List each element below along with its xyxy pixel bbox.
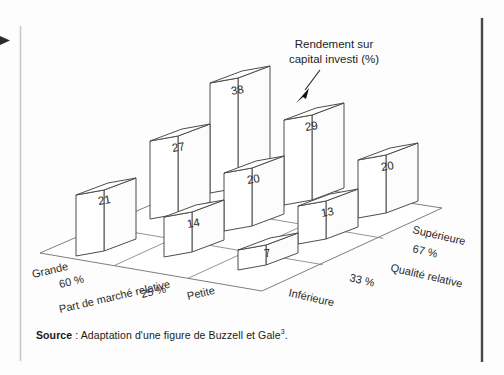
xaxis-tick-petite: Petite	[186, 284, 216, 302]
callout-arrow-icon	[296, 88, 309, 103]
bar-value-label: 13	[320, 205, 335, 219]
figure-container: 20 29 38 13 20	[0, 0, 504, 375]
zaxis-tick-inferieure: Inférieure	[288, 286, 336, 308]
bar-value-label: 27	[171, 140, 186, 154]
bar-value-label: 21	[97, 193, 112, 207]
bar-value-label: 29	[304, 119, 319, 133]
zaxis-tick-67: 67 %	[412, 242, 439, 259]
source-citation: Adaptation d'une figure de Buzzell et Ga…	[81, 329, 281, 341]
bar-value-label: 38	[230, 83, 245, 97]
bar-moyenne-superieure: 29	[284, 103, 344, 205]
source-label: Source	[36, 329, 72, 341]
roi-callout: Rendement sur capital investi (%)	[289, 38, 379, 103]
callout-line-1: Rendement sur	[295, 38, 374, 50]
left-edge-marker-icon	[0, 36, 10, 45]
zaxis-title: Qualité relative	[390, 261, 464, 289]
bar-chart-3d: 20 29 38 13 20	[0, 0, 504, 375]
bar-value-label: 20	[380, 159, 395, 173]
xaxis-tick-60: 60 %	[58, 273, 85, 290]
bar-value-label: 20	[246, 172, 261, 186]
zaxis-tick-33: 33 %	[349, 271, 376, 288]
source-line: Source : Adaptation d'une figure de Buzz…	[36, 328, 288, 341]
source-period: .	[285, 329, 288, 341]
callout-line-2: capital investi (%)	[289, 53, 379, 65]
source-separator: :	[72, 329, 80, 341]
